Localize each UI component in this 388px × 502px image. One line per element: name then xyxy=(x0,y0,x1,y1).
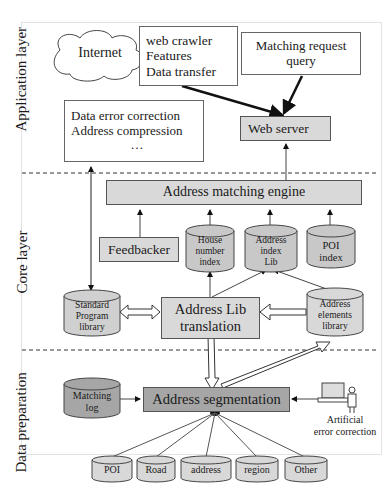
layer-label-data-preparation: Data preparation xyxy=(13,373,30,473)
crawler-line-1: web crawler xyxy=(146,33,212,49)
address-segmentation-box: Address segmentation xyxy=(143,387,290,412)
source-address-label: address xyxy=(181,464,231,476)
house-number-index-label: House number index xyxy=(186,235,234,268)
feedbacker-box: Feedbacker xyxy=(99,237,179,262)
address-matching-engine-box: Address matching engine xyxy=(106,180,362,205)
data-error-line-3: … xyxy=(131,138,144,153)
data-error-line-1: Data error correction xyxy=(71,109,180,124)
source-road-label: Road xyxy=(137,464,175,476)
internet-label: Internet xyxy=(70,45,130,61)
matching-request-line-2: query xyxy=(286,54,316,69)
computer-user-icon xyxy=(318,383,356,413)
address-index-lib-label: Address index Lib xyxy=(245,235,297,268)
poi-index-label: POI index xyxy=(307,240,355,264)
standard-program-library-label: Standard Program library xyxy=(64,300,120,333)
source-poi-label: POI xyxy=(92,464,132,476)
data-error-box: Data error correction Address compressio… xyxy=(64,100,204,162)
crawler-line-3: Data transfer xyxy=(146,64,216,80)
matching-request-box: Matching request query xyxy=(241,32,361,75)
source-other-label: Other xyxy=(285,464,327,476)
crawler-box: web crawler Features Data transfer xyxy=(139,26,238,86)
layer-label-core: Core layer xyxy=(14,234,31,294)
layer-label-application: Application layer xyxy=(13,42,30,132)
crawler-line-2: Features xyxy=(146,48,192,64)
matching-request-line-1: Matching request xyxy=(256,39,347,54)
source-region-label: region xyxy=(236,464,278,476)
web-server-box: Web server xyxy=(240,116,331,141)
artificial-error-correction-label: Artificial error correction xyxy=(305,414,385,437)
address-lib-translation-box: Address Lib translation xyxy=(161,297,260,339)
address-elements-library-label: Address elements library xyxy=(307,299,363,332)
matching-log-label: Matching log xyxy=(64,390,120,413)
data-error-line-2: Address compression xyxy=(71,124,183,139)
